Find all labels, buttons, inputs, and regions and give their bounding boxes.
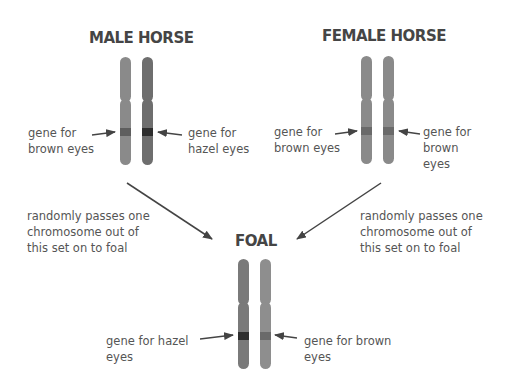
female-right-gene-label: gene for brown eyes <box>423 124 471 172</box>
arrow-icon <box>275 335 297 338</box>
inheritance-diagram <box>0 0 511 386</box>
gene-band-hazel <box>142 128 153 136</box>
foal-title: FOAL <box>235 232 277 250</box>
male-chromosome-hazel <box>142 57 153 165</box>
female-pass-note: randomly passes one chromosome out of th… <box>360 208 483 256</box>
male-chromosome-brown <box>120 57 131 165</box>
arrow-icon <box>158 132 182 135</box>
foal-chromosome-pair <box>238 259 271 369</box>
male-pass-note: randomly passes one chromosome out of th… <box>27 208 150 256</box>
female-left-gene-label: gene for brown eyes <box>274 124 340 156</box>
foal-right-gene-label: gene for brown eyes <box>304 333 391 365</box>
foal-left-gene-label: gene for hazel eyes <box>106 333 189 365</box>
female-horse-title: FEMALE HORSE <box>322 27 446 45</box>
male-horse-title: MALE HORSE <box>89 29 193 47</box>
arrow-icon <box>200 335 233 339</box>
foal-chromosome-brown <box>260 259 271 369</box>
male-right-gene-label: gene for hazel eyes <box>188 125 249 157</box>
arrow-icon <box>92 132 115 135</box>
gene-band-brown <box>120 128 131 136</box>
female-chromosome-pair <box>361 56 394 164</box>
male-left-gene-label: gene for brown eyes <box>28 125 94 157</box>
male-chromosome-pair <box>120 57 153 165</box>
arrow-icon <box>399 131 420 134</box>
female-chromosome-brown-1 <box>361 56 372 164</box>
female-chromosome-brown-2 <box>383 56 394 164</box>
foal-chromosome-hazel <box>238 259 249 369</box>
